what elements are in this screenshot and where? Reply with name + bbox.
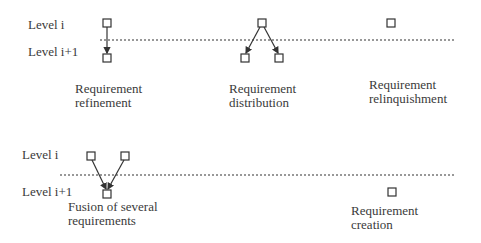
level-label-upper-bottom: Level i (22, 148, 58, 162)
caption-line: Fusion of several (68, 200, 158, 214)
node-distribution-child-left (241, 54, 249, 62)
caption-refinement: Requirement refinement (75, 82, 142, 110)
caption-fusion: Fusion of several requirements (68, 200, 158, 228)
arrow-distribution-right (264, 27, 278, 53)
node-refinement-parent (103, 19, 111, 27)
caption-line: requirements (68, 214, 158, 228)
caption-line: creation (351, 218, 418, 232)
caption-line: Requirement (351, 204, 418, 218)
node-relinquishment (387, 19, 395, 27)
arrow-fusion-left (92, 160, 106, 189)
caption-line: distribution (229, 96, 296, 110)
node-fusion-parent-right (121, 152, 129, 160)
level-label-lower-top: Level i+1 (28, 45, 78, 59)
node-refinement-child (103, 54, 111, 62)
caption-line: Requirement (229, 82, 296, 96)
caption-line: refinement (75, 96, 142, 110)
node-distribution-parent (258, 19, 266, 27)
caption-creation: Requirement creation (351, 204, 418, 232)
caption-line: Requirement (75, 82, 142, 96)
caption-distribution: Requirement distribution (229, 82, 296, 110)
caption-line: relinquishment (369, 92, 447, 106)
caption-relinquishment: Requirement relinquishment (369, 78, 447, 106)
node-fusion-child (103, 190, 111, 198)
node-creation (388, 188, 396, 196)
node-fusion-parent-left (87, 152, 95, 160)
level-label-lower-bottom: Level i+1 (22, 185, 72, 199)
caption-line: Requirement (369, 78, 447, 92)
node-distribution-child-right (275, 54, 283, 62)
level-label-upper-top: Level i (28, 18, 64, 32)
